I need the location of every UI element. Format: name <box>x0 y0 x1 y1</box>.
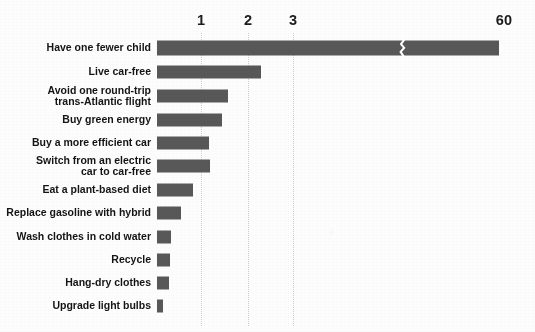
category-label: Wash clothes in cold water <box>0 231 157 243</box>
bar <box>157 137 209 150</box>
bar <box>157 300 163 313</box>
bar-track <box>157 155 535 177</box>
bar-track <box>157 180 535 200</box>
chart-row: Recycle <box>0 250 535 270</box>
chart-row: Hang-dry clothes <box>0 273 535 293</box>
chart-row: Switch from an electric car to car-free <box>0 155 535 177</box>
chart-row: Avoid one round-trip trans-Atlantic flig… <box>0 85 535 107</box>
category-label: Switch from an electric car to car-free <box>0 155 157 178</box>
bar-track <box>157 62 535 82</box>
bar <box>157 41 499 56</box>
bar <box>157 207 181 220</box>
bar <box>157 66 261 79</box>
bar-track <box>157 296 535 316</box>
category-label: Hang-dry clothes <box>0 277 157 289</box>
bar <box>157 160 210 173</box>
category-label: Buy green energy <box>0 114 157 126</box>
bar <box>157 90 228 103</box>
x-tick-label-2: 2 <box>244 12 252 28</box>
category-label: Eat a plant-based diet <box>0 184 157 196</box>
bar-track <box>157 273 535 293</box>
chart-row: Buy green energy <box>0 110 535 130</box>
category-label: Have one fewer child <box>0 42 157 54</box>
bar <box>157 277 169 290</box>
category-label: Recycle <box>0 254 157 266</box>
chart-row: Have one fewer child <box>0 38 535 58</box>
cropped-title-sliver <box>0 0 535 9</box>
category-label: Avoid one round-trip trans-Atlantic flig… <box>0 85 157 108</box>
category-label: Replace gasoline with hybrid <box>0 207 157 219</box>
x-tick-label-60: 60 <box>496 12 512 28</box>
bar-chart: 12360 Have one fewer childLive car-freeA… <box>0 0 535 332</box>
bar <box>157 254 170 267</box>
category-label: Buy a more efficient car <box>0 137 157 149</box>
chart-row: Replace gasoline with hybrid <box>0 203 535 223</box>
bar-track <box>157 133 535 153</box>
bar-track <box>157 250 535 270</box>
bar <box>157 231 171 244</box>
bar-track <box>157 85 535 107</box>
bar-track <box>157 227 535 247</box>
bar-track <box>157 38 535 58</box>
bar <box>157 184 193 197</box>
chart-row: Upgrade light bulbs <box>0 296 535 316</box>
chart-row: Wash clothes in cold water <box>0 227 535 247</box>
x-tick-label-1: 1 <box>197 12 205 28</box>
x-tick-label-3: 3 <box>289 12 297 28</box>
category-label: Live car-free <box>0 66 157 78</box>
bar <box>157 114 222 127</box>
bar-track <box>157 203 535 223</box>
bar-track <box>157 110 535 130</box>
chart-row: Live car-free <box>0 62 535 82</box>
chart-row: Eat a plant-based diet <box>0 180 535 200</box>
chart-row: Buy a more efficient car <box>0 133 535 153</box>
category-label: Upgrade light bulbs <box>0 300 157 312</box>
